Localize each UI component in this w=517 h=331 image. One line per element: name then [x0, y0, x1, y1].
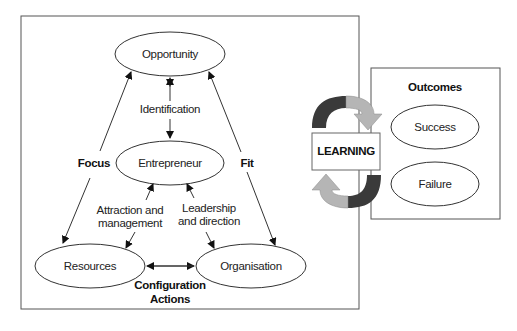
leadership-arrow-down: [206, 232, 214, 248]
attraction-arrow-down: [126, 232, 135, 248]
label-configuration-line1: Configuration: [134, 279, 205, 292]
node-opportunity: Opportunity: [142, 48, 198, 61]
label-configuration-line2: Actions: [150, 293, 190, 306]
fit-arrow-up: [209, 72, 241, 152]
node-entrepreneur: Entrepreneur: [138, 157, 202, 170]
attraction-arrow-up: [146, 184, 153, 200]
label-identification: Identification: [140, 103, 200, 116]
node-resources: Resources: [64, 260, 116, 273]
label-leadership-line2: and direction: [178, 215, 240, 228]
node-learning: LEARNING: [317, 145, 375, 158]
focus-arrow-down: [63, 178, 90, 243]
leadership-arrow-up: [187, 184, 194, 198]
label-attraction-line1: Attraction and: [97, 204, 164, 217]
node-failure: Failure: [418, 178, 451, 191]
label-fit: Fit: [240, 157, 253, 170]
node-success: Success: [414, 121, 455, 134]
fit-arrow-down: [247, 172, 275, 245]
label-attraction-line2: management: [98, 217, 162, 230]
node-organisation: Organisation: [220, 260, 282, 273]
focus-arrow-up: [100, 72, 131, 151]
label-focus: Focus: [78, 157, 110, 170]
outcomes-title: Outcomes: [408, 81, 462, 94]
label-leadership-line1: Leadership: [182, 202, 236, 215]
